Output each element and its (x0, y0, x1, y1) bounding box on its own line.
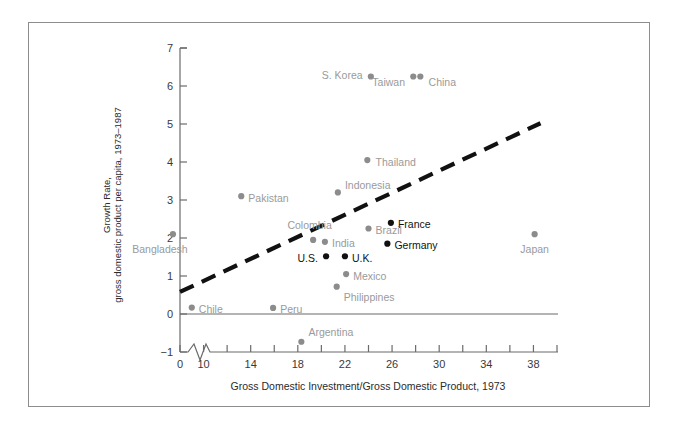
point-france (388, 220, 394, 226)
x-tick-label: 34 (480, 358, 492, 370)
point-chile (189, 304, 195, 310)
y-tick-label: 7 (167, 42, 173, 54)
y-tick-label: 5 (167, 118, 173, 130)
point-germany (384, 241, 390, 247)
series-0: BangladeshPakistanColombiaIndiaIndonesia… (132, 69, 549, 345)
label-france: France (398, 218, 431, 230)
label-u-k: U.K. (352, 252, 372, 264)
y-axis-title-line1: Growth Rate, (101, 177, 112, 233)
x-tick-label: 18 (292, 358, 304, 370)
x-tick-label: 26 (386, 358, 398, 370)
x-tick-label: 14 (245, 358, 257, 370)
point-colombia (310, 237, 316, 243)
y-tick-label: 0 (167, 308, 173, 320)
point-indonesia (335, 189, 341, 195)
label-u-s: U.S. (297, 252, 317, 264)
x-axis-title: Gross Domestic Investment/Gross Domestic… (231, 380, 506, 392)
y-tick-label: −1 (160, 346, 173, 358)
label-bangladesh: Bangladesh (132, 243, 188, 255)
x-tick-label: 38 (527, 358, 539, 370)
point-pakistan (238, 193, 244, 199)
point-u-s (323, 253, 329, 259)
trend-line (180, 123, 541, 292)
x-tick-label: 10 (197, 358, 209, 370)
label-indonesia: Indonesia (345, 179, 391, 191)
point-argentina (298, 339, 304, 345)
point-mexico (343, 271, 349, 277)
x-tick-label: 22 (339, 358, 351, 370)
label-thailand: Thailand (376, 156, 416, 168)
point-u-k (342, 253, 348, 259)
label-colombia: Colombia (287, 219, 332, 231)
x-origin-label: 0 (177, 358, 183, 370)
y-axis-title-line2: gross domestic product per capita, 1973–… (112, 107, 123, 302)
label-germany: Germany (394, 239, 438, 251)
trend-line (180, 123, 541, 292)
y-tick-label: 4 (167, 156, 173, 168)
point-taiwan (410, 73, 416, 79)
point-japan (532, 231, 538, 237)
y-tick-label: 1 (167, 270, 173, 282)
label-philippines: Philippines (344, 291, 395, 303)
scatter-plot: −10123456710141822263034380 BangladeshPa… (0, 0, 678, 429)
label-argentina: Argentina (308, 326, 353, 338)
label-chile: Chile (199, 303, 223, 315)
label-s-korea: S. Korea (322, 69, 363, 81)
point-peru (270, 305, 276, 311)
label-china: China (429, 76, 457, 88)
label-peru: Peru (280, 303, 302, 315)
label-pakistan: Pakistan (248, 192, 288, 204)
point-india (322, 239, 328, 245)
x-tick-label: 30 (433, 358, 445, 370)
point-brazil (365, 225, 371, 231)
label-japan: Japan (520, 243, 549, 255)
point-china (417, 73, 423, 79)
point-bangladesh (170, 231, 176, 237)
y-axis-title: Growth Rate, gross domestic product per … (101, 107, 123, 302)
point-thailand (364, 157, 370, 163)
label-india: India (332, 237, 355, 249)
data-points: BangladeshPakistanColombiaIndiaIndonesia… (132, 69, 549, 345)
label-taiwan: Taiwan (372, 76, 405, 88)
point-philippines (334, 284, 340, 290)
label-mexico: Mexico (353, 270, 386, 282)
y-tick-label: 6 (167, 80, 173, 92)
y-tick-label: 3 (167, 194, 173, 206)
